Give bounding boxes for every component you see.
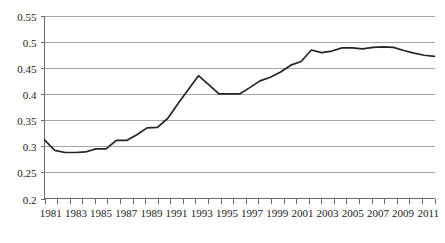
x-axis-tick-marks xyxy=(46,199,436,204)
y-axis-tick-marks xyxy=(41,17,45,200)
x-tick-label: 1997 xyxy=(241,207,264,219)
x-tick-label: 1991 xyxy=(166,207,188,219)
y-tick-label: 0.5 xyxy=(23,37,37,49)
y-tick-label: 0.2 xyxy=(23,194,37,206)
y-tick-label: 0.45 xyxy=(17,63,37,75)
chart-canvas: 0.550.50.450.40.350.30.250.2 19811983198… xyxy=(0,0,445,243)
y-axis-tick-labels: 0.550.50.450.40.350.30.250.2 xyxy=(17,11,37,206)
x-tick-label: 1999 xyxy=(266,207,289,219)
x-tick-label: 2007 xyxy=(367,207,390,219)
x-tick-label: 1989 xyxy=(140,207,163,219)
x-tick-label: 1995 xyxy=(216,207,239,219)
y-tick-label: 0.55 xyxy=(17,11,37,23)
x-tick-label: 2001 xyxy=(291,207,313,219)
y-tick-label: 0.4 xyxy=(23,89,37,101)
y-tick-label: 0.35 xyxy=(17,115,37,127)
x-tick-label: 2005 xyxy=(342,207,365,219)
x-axis-tick-labels: 1981198319851987198919911993199519971999… xyxy=(40,207,439,219)
line-chart: 0.550.50.450.40.350.30.250.2 19811983198… xyxy=(0,0,445,243)
x-tick-label: 1983 xyxy=(65,207,88,219)
x-tick-label: 2009 xyxy=(392,207,415,219)
x-tick-label: 1987 xyxy=(115,207,138,219)
data-series-line xyxy=(45,47,435,153)
x-tick-label: 1993 xyxy=(191,207,214,219)
x-tick-label: 1985 xyxy=(90,207,113,219)
y-tick-label: 0.3 xyxy=(23,141,37,153)
y-tick-label: 0.25 xyxy=(17,167,37,179)
x-tick-label: 2011 xyxy=(417,207,439,219)
x-tick-label: 1981 xyxy=(40,207,62,219)
x-tick-label: 2003 xyxy=(317,207,340,219)
